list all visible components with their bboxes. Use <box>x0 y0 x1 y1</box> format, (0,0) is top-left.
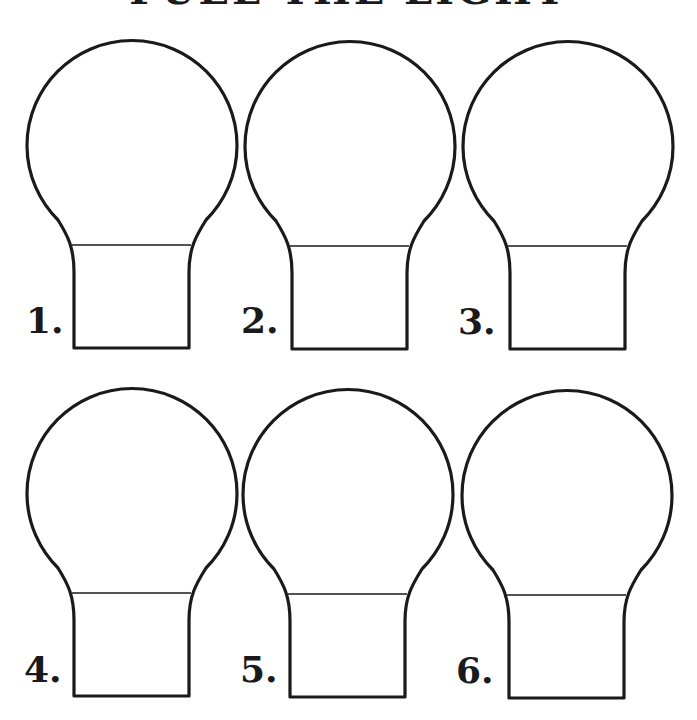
bulbs-canvas <box>0 0 697 720</box>
bulb-label-2: 2. <box>241 302 279 338</box>
bulb-label-3: 3. <box>458 303 496 339</box>
bulb-label-5: 5. <box>240 651 278 687</box>
worksheet: FUEL THE LIGHT 1. 2. 3. 4. 5. 6. <box>0 0 697 720</box>
bulb-label-4: 4. <box>24 651 62 687</box>
bulb-label-6: 6. <box>456 652 494 688</box>
bulb-label-1: 1. <box>26 302 64 338</box>
